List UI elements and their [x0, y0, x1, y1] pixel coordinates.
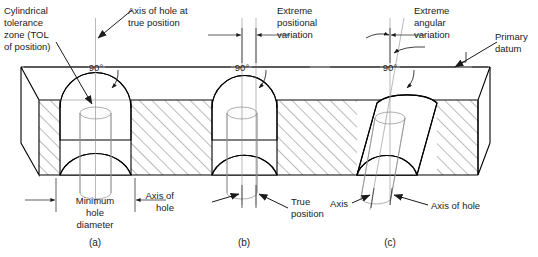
label-axis-c: Axis	[330, 198, 348, 209]
hole-b-bottom-pointers	[212, 185, 288, 208]
ext-ang-line-3: variation	[414, 29, 450, 40]
primary-datum-line-1: Primary	[495, 31, 528, 42]
label-extreme-angular-variation: Extreme angular variation	[414, 5, 450, 40]
label-extreme-positional-variation: Extreme positional variation	[277, 5, 317, 40]
tol-line-2: tolerance	[4, 17, 43, 28]
label-cylindrical-tolerance-zone: Cylindrical tolerance zone (TOL of posit…	[4, 5, 50, 52]
true-pos-line-2: position	[291, 208, 324, 219]
caption-c: (c)	[384, 237, 396, 248]
axis-tp-line-1: Axis of hole at	[128, 5, 188, 16]
angle-label-a: 90°	[89, 62, 104, 73]
engineering-drawing-svg: 90° 90° 90°	[0, 0, 538, 257]
ext-pos-line-2: positional	[277, 17, 317, 28]
angle-label-b: 90°	[235, 62, 250, 73]
ext-ang-line-1: Extreme	[414, 5, 449, 16]
label-primary-datum: Primary datum	[495, 31, 528, 54]
tol-line-1: Cylindrical	[4, 5, 48, 16]
angle-label-c: 90°	[383, 62, 398, 73]
tol-line-4: of position)	[4, 41, 50, 52]
tol-line-3: zone (TOL	[4, 29, 49, 40]
axis-hole-b-line-2: hole	[156, 202, 174, 213]
figure-container: 90° 90° 90°	[0, 0, 538, 257]
ext-pos-line-1: Extreme	[277, 5, 312, 16]
hole-b	[212, 18, 277, 205]
ext-ang-line-2: angular	[414, 17, 446, 28]
ext-pos-line-3: variation	[277, 29, 313, 40]
min-hole-line-1: Minimum	[76, 195, 115, 206]
label-true-position-b: True position	[291, 196, 324, 219]
label-minimum-hole-diameter: Minimum hole diameter	[76, 195, 115, 230]
axis-hole-b-line-1: Axis of	[145, 190, 174, 201]
label-axis-of-hole-c: Axis of hole	[431, 200, 480, 211]
true-pos-line-1: True	[291, 196, 310, 207]
label-axis-of-hole-b: Axis of hole	[145, 190, 174, 213]
axis-tp-line-2: true position	[128, 17, 180, 28]
min-hole-line-3: diameter	[77, 219, 114, 230]
label-axis-of-hole-true-position: Axis of hole at true position	[128, 5, 188, 28]
caption-b: (b)	[238, 237, 250, 248]
primary-datum-line-2: datum	[495, 43, 521, 54]
caption-a: (a)	[89, 237, 101, 248]
min-hole-line-2: hole	[86, 207, 104, 218]
